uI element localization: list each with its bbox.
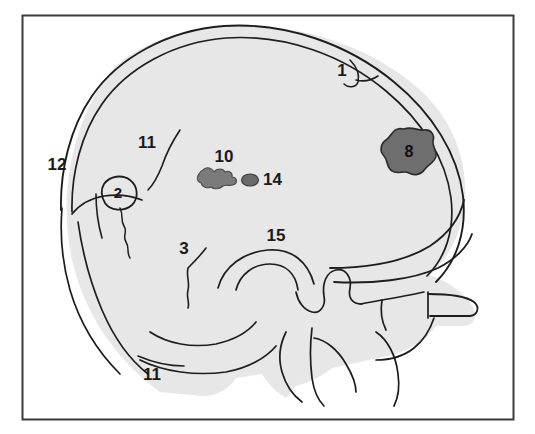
label-11-upper: 11 (138, 133, 156, 152)
label-3: 3 (179, 239, 188, 258)
skull-diagram-svg: 1 12 11 2 10 14 8 3 15 11 (0, 0, 535, 434)
label-2: 2 (114, 184, 122, 201)
label-12: 12 (48, 155, 67, 174)
label-10: 10 (215, 147, 234, 166)
label-1: 1 (337, 61, 346, 80)
label-11-lower: 11 (143, 365, 161, 384)
figure-container: 1 12 11 2 10 14 8 3 15 11 (0, 0, 535, 434)
label-8: 8 (405, 143, 414, 160)
lesion-14-dot (242, 174, 259, 186)
label-14: 14 (263, 170, 282, 189)
label-15: 15 (267, 226, 286, 245)
